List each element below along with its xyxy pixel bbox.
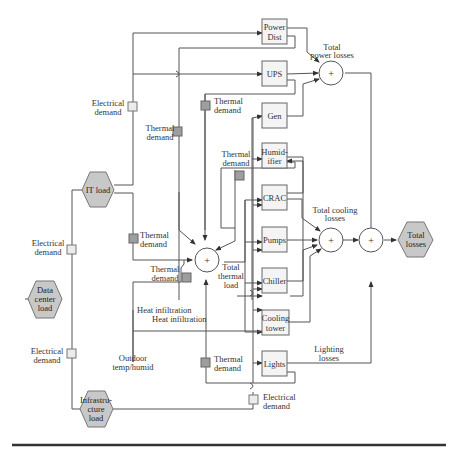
power-dist-label-1: Power — [264, 22, 286, 32]
ups-box[interactable]: UPS — [262, 61, 287, 86]
chiller-label: Chiller — [263, 276, 287, 286]
chiller-box[interactable]: Chiller — [262, 268, 287, 293]
thermal-demand-marker-5[interactable] — [201, 358, 210, 367]
electrical-demand-dc-upper-label-2: demand — [35, 247, 63, 257]
power-dist-label-2: Dist — [267, 32, 282, 42]
outdoor-temp-label-2: temp/humid — [112, 362, 154, 372]
infrastructure-load-label-3: load — [89, 413, 104, 423]
thermal-demand-5-label-2: demand — [214, 363, 242, 373]
electrical-demand-marker-infra[interactable] — [249, 395, 258, 404]
electrical-demand-infra-label-2: demand — [263, 401, 291, 411]
power-dist-box[interactable]: Power Dist — [262, 19, 287, 44]
crac-box[interactable]: CRAC — [262, 185, 287, 210]
lighting-losses-label-2: losses — [319, 353, 339, 363]
sum-total-cooling-losses[interactable]: + — [319, 228, 343, 252]
total-cooling-losses-label-2: losses — [325, 213, 345, 223]
total-losses-node[interactable]: Total losses — [398, 222, 433, 257]
total-thermal-load-label-3: load — [224, 280, 239, 290]
heat-infiltration-label-2: Heat infiltration — [152, 314, 207, 324]
electrical-demand-marker-dc-lower[interactable] — [67, 349, 76, 358]
thermal-demand-marker-humidifier[interactable] — [235, 171, 244, 180]
infrastructure-load-node[interactable]: Infrastru- cture load — [80, 391, 113, 427]
electrical-demand-dc-lower-label-2: demand — [34, 355, 62, 365]
sum-total-thermal-load[interactable]: + — [195, 248, 219, 272]
ups-label: UPS — [267, 69, 283, 79]
electrical-demand-marker-dc-upper[interactable] — [67, 245, 76, 254]
plus-icon: + — [328, 68, 334, 79]
annotations: Total power losses Total cooling losses … — [31, 42, 359, 411]
thermal-demand-3-label-2: demand — [140, 239, 168, 249]
electrical-demand-it-label-2: demand — [95, 107, 123, 117]
plus-icon: + — [204, 255, 210, 266]
lights-box[interactable]: Lights — [262, 351, 287, 376]
thermal-demand-4-label-2: demand — [152, 273, 180, 283]
humidifier-box[interactable]: Humid- ifier — [261, 143, 288, 168]
cooling-tower-box[interactable]: Cooling tower — [262, 310, 290, 335]
crac-label: CRAC — [263, 193, 286, 203]
it-load-label: IT load — [86, 185, 111, 195]
cooling-tower-label-2: tower — [266, 323, 286, 333]
data-center-loss-diagram: IT load Data center load Infrastru- ctur… — [0, 0, 458, 453]
thermal-demand-2-label-2: demand — [214, 105, 242, 115]
data-center-load-label-3: load — [38, 303, 53, 313]
thermal-demand-1-label-2: demand — [147, 132, 175, 142]
electrical-demand-marker-it[interactable] — [128, 102, 137, 111]
thermal-demand-humidifier-label-2: demand — [223, 158, 251, 168]
gen-box[interactable]: Gen — [262, 103, 287, 128]
plus-icon: + — [368, 235, 374, 246]
total-power-losses-label-2: power losses — [310, 50, 354, 60]
cooling-tower-label-1: Cooling — [262, 313, 290, 323]
lights-label: Lights — [264, 359, 286, 369]
thermal-demand-marker-3[interactable] — [129, 234, 138, 243]
total-losses-label-2: losses — [406, 239, 426, 249]
humidifier-label-2: ifier — [267, 156, 281, 166]
gen-label: Gen — [267, 111, 282, 121]
thermal-demand-marker-2[interactable] — [201, 101, 210, 110]
sum-total-losses[interactable]: + — [359, 228, 383, 252]
sum-total-power-losses[interactable]: + — [319, 61, 343, 85]
thermal-demand-marker-4[interactable] — [182, 273, 191, 282]
pumps-box[interactable]: Pumps — [262, 227, 287, 252]
plus-icon: + — [328, 235, 334, 246]
it-load-node[interactable]: IT load — [82, 172, 114, 207]
data-center-load-node[interactable]: Data center load — [28, 281, 62, 318]
pumps-label: Pumps — [263, 235, 286, 245]
